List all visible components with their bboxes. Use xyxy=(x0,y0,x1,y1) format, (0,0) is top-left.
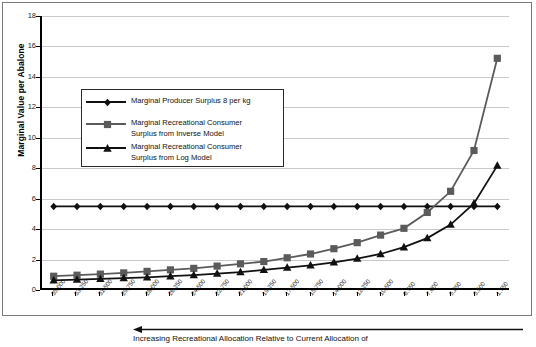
data-point-marker xyxy=(167,203,174,211)
x-axis-tick-labels: 35,00033,25031,50029,75028,00026,25024,5… xyxy=(40,292,509,322)
data-point-marker xyxy=(494,203,501,211)
data-point-marker xyxy=(377,232,384,239)
data-point-marker xyxy=(354,239,361,246)
data-point-marker xyxy=(214,203,221,211)
y-tick-label: 4 xyxy=(10,225,36,233)
data-point-marker xyxy=(214,263,221,270)
y-tick-label: 16 xyxy=(10,43,36,51)
x-tick-mark xyxy=(146,292,147,296)
data-point-marker xyxy=(330,245,337,252)
data-point-marker xyxy=(307,250,314,257)
data-point-marker xyxy=(423,234,431,242)
legend-label-line1: Marginal Recreational Consumer xyxy=(131,142,242,153)
legend-key-marker xyxy=(102,143,113,154)
data-point-marker xyxy=(144,203,151,211)
x-tick-mark xyxy=(169,292,170,296)
x-tick-mark xyxy=(474,292,475,296)
y-tick-label: 10 xyxy=(10,134,36,142)
data-point-marker xyxy=(330,203,337,211)
x-tick-mark xyxy=(263,292,264,296)
x-tick-mark xyxy=(357,292,358,296)
data-point-marker xyxy=(97,203,104,211)
x-tick-mark xyxy=(52,292,53,296)
legend-label-line1: Marginal Producer Surplus 8 per kg xyxy=(131,96,250,107)
chart-frame: Marginal Value per Abalone 0246810121416… xyxy=(2,2,532,316)
data-point-marker xyxy=(354,203,361,211)
legend-key-marker xyxy=(102,119,113,130)
legend-marker-diamond-icon xyxy=(86,97,126,107)
data-point-marker xyxy=(400,225,407,232)
legend-entry: Marginal Producer Surplus 8 per kg xyxy=(82,96,283,107)
legend-label: Marginal Recreational ConsumerSurplus fr… xyxy=(126,118,242,139)
data-point-marker xyxy=(74,203,81,211)
y-tick-label: 6 xyxy=(10,195,36,203)
data-point-marker xyxy=(401,203,408,211)
x-tick-mark xyxy=(380,292,381,296)
x-tick-mark xyxy=(75,292,76,296)
data-point-marker xyxy=(377,203,384,211)
data-point-marker xyxy=(284,254,291,261)
x-tick-mark xyxy=(427,292,428,296)
y-tick-label: 8 xyxy=(10,164,36,172)
data-point-marker xyxy=(494,55,501,62)
data-point-marker xyxy=(120,203,127,211)
x-tick-mark xyxy=(192,292,193,296)
chart-screenshot: Marginal Value per Abalone 0246810121416… xyxy=(0,0,536,347)
y-tick-label: 2 xyxy=(10,256,36,264)
legend-key-marker xyxy=(102,97,113,108)
data-point-marker xyxy=(493,161,501,169)
legend-entry: Marginal Recreational ConsumerSurplus fr… xyxy=(82,118,283,139)
x-tick-mark xyxy=(286,292,287,296)
data-point-marker xyxy=(284,203,291,211)
data-point-marker xyxy=(237,260,244,267)
y-axis-tick-labels: 024681012141618 xyxy=(8,16,36,290)
x-tick-mark xyxy=(310,292,311,296)
data-point-marker xyxy=(424,209,431,216)
x-tick-mark xyxy=(404,292,405,296)
data-point-marker xyxy=(447,188,454,195)
data-point-marker xyxy=(260,258,267,265)
x-tick-mark xyxy=(333,292,334,296)
series-line xyxy=(54,166,498,281)
data-point-marker xyxy=(470,147,477,154)
legend-label-line2: Surplus from Inverse Model xyxy=(131,129,242,140)
series-3 xyxy=(49,161,501,283)
legend-label: Marginal Producer Surplus 8 per kg xyxy=(126,96,250,107)
data-point-marker xyxy=(190,203,197,211)
data-point-marker xyxy=(237,203,244,211)
x-tick-mark xyxy=(239,292,240,296)
legend-marker-triangle-icon xyxy=(86,143,126,153)
data-point-marker xyxy=(307,203,314,211)
y-tick-label: 14 xyxy=(10,73,36,81)
x-axis-caption: Increasing Recreational Allocation Relat… xyxy=(133,334,529,344)
x-tick-mark xyxy=(216,292,217,296)
x-tick-mark xyxy=(122,292,123,296)
legend-label-line1: Marginal Recreational Consumer xyxy=(131,118,242,129)
x-tick-mark xyxy=(497,292,498,296)
data-point-marker xyxy=(447,203,454,211)
y-tick-label: 12 xyxy=(10,104,36,112)
legend-label-line2: Surplus from Log Model xyxy=(131,153,242,164)
legend-marker-square-icon xyxy=(86,119,126,129)
chart-legend: Marginal Producer Surplus 8 per kgMargin… xyxy=(81,89,284,167)
y-tick-label: 0 xyxy=(10,286,36,294)
x-tick-mark xyxy=(99,292,100,296)
legend-label: Marginal Recreational ConsumerSurplus fr… xyxy=(126,142,242,163)
increasing-allocation-arrow-icon xyxy=(133,325,523,334)
x-tick-mark xyxy=(450,292,451,296)
y-tick-mark xyxy=(36,290,40,291)
data-point-marker xyxy=(260,203,267,211)
y-tick-label: 18 xyxy=(10,12,36,20)
legend-entry: Marginal Recreational ConsumerSurplus fr… xyxy=(82,142,283,163)
data-point-marker xyxy=(50,203,57,211)
